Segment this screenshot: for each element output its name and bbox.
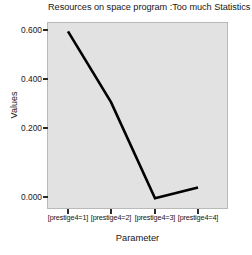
series-values (47, 22, 228, 209)
x-axis-title: Parameter (47, 233, 228, 243)
chart-container: Resources on space program :Too much Sta… (0, 0, 252, 255)
y-tick-label-0.600: 0.600 (6, 25, 42, 35)
x-tick-label-prestige4-4: [prestige4=4] (167, 213, 229, 222)
y-tick-label-0.000: 0.000 (6, 192, 42, 202)
data-line (68, 31, 198, 198)
y-tick-label-0.200: 0.200 (6, 123, 42, 133)
chart-title: Resources on space program :Too much Sta… (48, 1, 252, 13)
y-tick-label-0.400: 0.400 (6, 74, 42, 84)
